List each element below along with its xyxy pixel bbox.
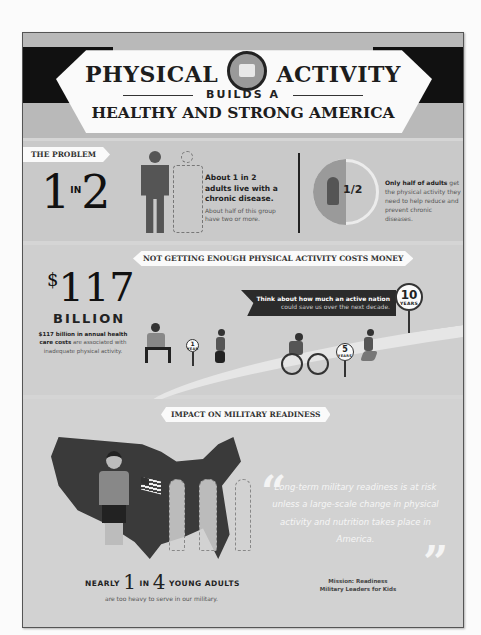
amount-value: 117 [58, 264, 134, 310]
attrib-org: Mission: Readiness [298, 577, 418, 585]
walker-legs-icon [215, 351, 225, 363]
solid-person-icon [141, 151, 169, 235]
woman-runner-icon [327, 177, 339, 205]
military-section: IMPACT ON MILITARY READINESS NEARLY 1 IN… [23, 399, 463, 628]
money-tag: NOT GETTING ENOUGH PHYSICAL ACTIVITY COS… [133, 251, 413, 266]
attrib-sub: Military Leaders for Kids [298, 585, 418, 593]
too-heavy-text: are too heavy to serve in our military. [105, 595, 218, 602]
bike-wheel-icon [281, 353, 303, 375]
sign-unit: YEARS [337, 354, 353, 358]
title-subtitle: HEALTHY AND STRONG AMERICA [23, 103, 463, 122]
header: PHYSICAL ACTIVITY BUILDS A HEALTHY AND S… [23, 33, 463, 138]
nearly-label: NEARLY [85, 579, 120, 588]
young-adults-label: YOUNG ADULTS [169, 579, 240, 588]
decade-callout: Think about how much an active nation co… [241, 290, 396, 316]
cost-amount: $117 [47, 267, 135, 307]
title-activity: ACTIVITY [276, 61, 401, 87]
military-quote: Long-term military readiness is at risk … [263, 479, 448, 549]
runner-head-icon [367, 329, 374, 336]
dashed-boy-silhouette-icon [199, 479, 217, 551]
sign-pole [408, 311, 410, 333]
walker-head-icon [218, 329, 225, 336]
money-section: NOT GETTING ENOUGH PHYSICAL ACTIVITY COS… [23, 245, 463, 395]
cyclist-head-icon [295, 333, 303, 341]
sign-unit: YEAR [187, 347, 198, 351]
sign-pole [344, 361, 346, 377]
callout-bold: Think about how much an active nation [241, 295, 390, 303]
ratio-right: 2 [81, 165, 110, 219]
half-circle-chart: 1/2 [313, 159, 369, 225]
bench-icon [145, 347, 171, 363]
runner-body-icon [364, 337, 373, 351]
cost-description: $117 billion in annual health care costs… [33, 330, 133, 355]
quote-attribution: Mission: Readiness Military Leaders for … [298, 577, 418, 594]
half-adults-stat: Only half of adults get the physical act… [385, 178, 461, 223]
sign-5-years: 5YEARS [336, 343, 354, 361]
problem-tag: THE PROBLEM [23, 147, 110, 162]
problem-section: THE PROBLEM 1IN2 About 1 in 2 adults liv… [23, 141, 463, 241]
close-quote-icon: ” [423, 541, 448, 585]
one-in-four-stat: NEARLY 1 IN 4 YOUNG ADULTS [85, 572, 240, 596]
stat-in: IN [140, 579, 150, 588]
stat-n2: 4 [153, 570, 166, 594]
stat2-bold: Only half of adults [385, 179, 447, 186]
cost-unit: BILLION [53, 311, 125, 326]
ratio-left: 1 [41, 165, 70, 219]
half-label: 1/2 [343, 183, 362, 196]
military-tag: IMPACT ON MILITARY READINESS [161, 407, 330, 422]
reader-head-icon [151, 323, 160, 332]
dollar-sign: $ [47, 269, 58, 290]
bike-wheel-icon [307, 353, 329, 375]
stat1-heading: About 1 in 2 adults live with a chronic … [205, 173, 285, 205]
sign-1-year: 1YEAR [186, 339, 199, 352]
sign-10-years: 10YEARS [395, 283, 423, 311]
title-physical: PHYSICAL [85, 61, 218, 87]
stat1-sub: About half of this group have two or mor… [205, 207, 285, 224]
sign-pole [192, 352, 194, 366]
one-in-two-stat: 1IN2 [41, 169, 110, 215]
title-builds: BUILDS A [123, 88, 363, 101]
walker-body-icon [216, 337, 225, 351]
divider [298, 153, 300, 233]
sign-unit: YEARS [397, 301, 421, 306]
callout-rest: could save us over the next decade. [281, 303, 390, 310]
dashed-girl-silhouette-icon [169, 479, 185, 551]
sign-number: 10 [397, 289, 421, 301]
dashed-person-icon [173, 151, 205, 235]
sunrise-emblem-icon [227, 51, 267, 91]
dashed-girl-silhouette-icon [235, 479, 251, 551]
chronic-disease-stat: About 1 in 2 adults live with a chronic … [205, 173, 285, 223]
sign-number: 5 [337, 346, 353, 354]
ratio-in: IN [70, 185, 81, 195]
stat-n1: 1 [123, 570, 136, 594]
infographic-frame: PHYSICAL ACTIVITY BUILDS A HEALTHY AND S… [22, 32, 464, 628]
